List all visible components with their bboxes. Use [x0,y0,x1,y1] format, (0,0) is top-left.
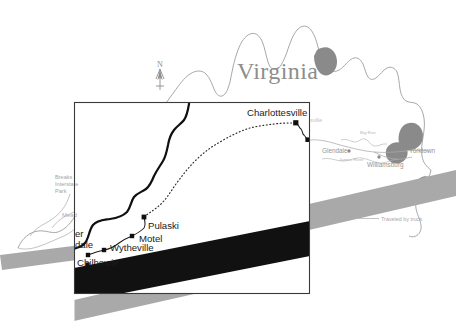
west-outline-lower-path [18,226,78,249]
breaks-line-3: Park [55,188,78,195]
marker-wytheville [102,248,106,252]
glendale-label: Glendale [322,148,348,155]
clipped-lower-label: dale [75,240,93,250]
meadows-label: Mead [62,212,77,218]
marker-motel [130,234,134,238]
breaks-interstate-park-label: Breaks Interstate Park [55,174,78,194]
yorktown-label: Yorktown [409,148,435,155]
james-river-label: James River [339,158,363,163]
river-big-run [341,139,387,146]
marker-pulaski [142,215,147,220]
breaks-line-1: Breaks [55,174,78,181]
pulaski-label: Pulaski [148,221,179,231]
charlottesville-label: Charlottesville [247,108,307,118]
map-figure: Virginia N Breaks Interstate Park Mead G… [0,0,456,321]
marker-charlottesville [293,120,298,125]
chilhowie-label: Chilhowie [77,258,119,268]
state-title: Virginia [237,59,318,83]
williamsburg-label: Williamsburg [367,162,404,169]
inset-map-group [74,102,310,303]
wytheville-label: Wytheville [110,243,154,253]
legend-traveled-by-truck: Traveled by truck [381,216,422,222]
north-letter: N [157,60,163,69]
charlottesville-shadow-label: sville [310,118,322,124]
clipped-upper-label: er [75,229,84,239]
north-arrow-icon [156,69,164,90]
breaks-line-2: Interstate [55,181,78,188]
big-run-river-label: Big Run [360,131,376,136]
dot-williamsburg [377,155,380,158]
